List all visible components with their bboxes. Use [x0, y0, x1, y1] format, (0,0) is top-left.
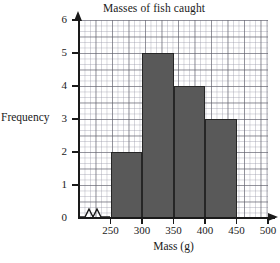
histogram-bar [174, 86, 206, 218]
histogram-bar [111, 152, 143, 218]
y-axis-tick-label: 4 [45, 80, 67, 91]
x-axis-arrow-icon [268, 213, 278, 221]
y-axis-tick [72, 184, 79, 185]
y-axis-tick [72, 85, 79, 86]
y-axis-tick-label: 5 [45, 47, 67, 58]
histogram-bar [142, 53, 174, 218]
y-axis-title: Frequency [1, 111, 50, 123]
y-axis-tick-label: 0 [45, 212, 67, 223]
y-axis-tick [72, 19, 79, 20]
y-axis-tick [72, 118, 79, 119]
histogram-chart: Masses of fish caught 0123456 2503003504… [0, 0, 280, 263]
x-axis-tick-label: 500 [251, 224, 280, 236]
axis-break-icon [80, 205, 110, 219]
x-axis-tick-label: 400 [188, 224, 222, 236]
x-axis-title: Mass (g) [79, 240, 268, 252]
chart-title: Masses of fish caught [0, 2, 280, 14]
y-axis-tick-label: 2 [45, 146, 67, 157]
x-axis-tick-label: 300 [125, 224, 159, 236]
y-axis-tick [72, 52, 79, 53]
x-axis-tick-label: 250 [94, 224, 128, 236]
y-axis-tick [72, 151, 79, 152]
x-axis-tick-label: 450 [220, 224, 254, 236]
y-axis-tick-label: 1 [45, 179, 67, 190]
plot-area [79, 20, 268, 218]
histogram-bar [205, 119, 237, 218]
y-axis-tick-label: 6 [45, 14, 67, 25]
x-axis-tick-label: 350 [157, 224, 191, 236]
